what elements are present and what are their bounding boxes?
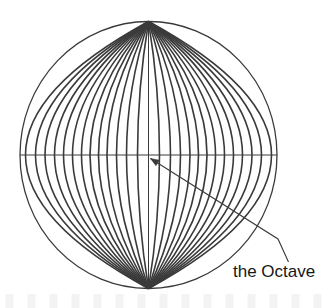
diagram-canvas: the Octave <box>0 0 333 308</box>
octave-diagram-svg: the Octave <box>0 0 333 308</box>
arrowhead-icon <box>151 159 160 166</box>
annotation-label: the Octave <box>233 262 315 281</box>
